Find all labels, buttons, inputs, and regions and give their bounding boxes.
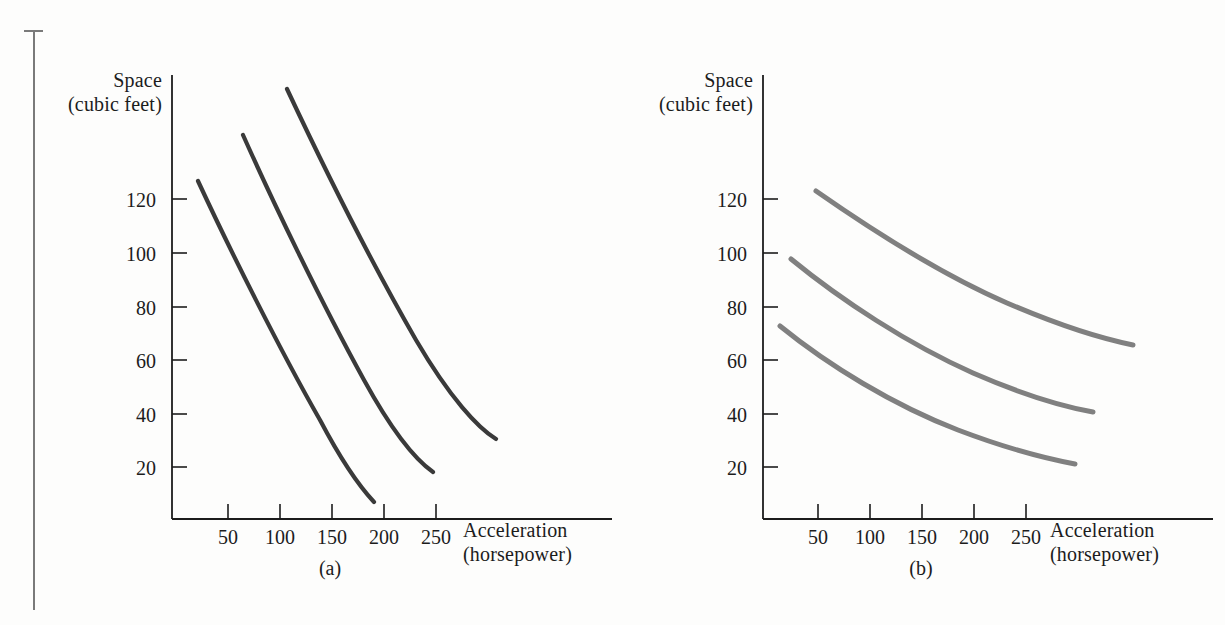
- panel-b-curve-2: [791, 259, 1093, 412]
- panel-b-plot: [613, 0, 1225, 625]
- panel-a-curve-2: [243, 135, 433, 472]
- panel-a: Space (cubic feet) Acceleration (horsepo…: [0, 0, 612, 625]
- figure-root: Space (cubic feet) Acceleration (horsepo…: [0, 0, 1225, 625]
- panel-b: Space (cubic feet) Acceleration (horsepo…: [613, 0, 1225, 625]
- panel-b-curve-3: [816, 191, 1133, 345]
- panel-a-curve-3: [287, 89, 496, 439]
- panel-a-plot: [0, 0, 612, 625]
